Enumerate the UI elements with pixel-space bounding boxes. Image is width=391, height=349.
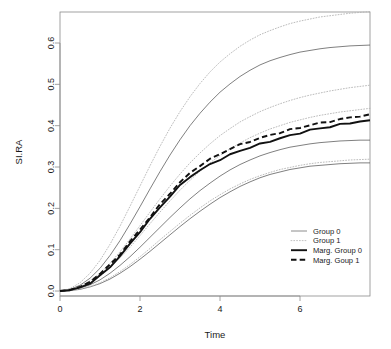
legend-label: Group 1	[313, 236, 340, 245]
y-axis-tick-label: 0.4	[46, 119, 56, 132]
x-axis-title: Time	[205, 329, 226, 340]
legend-label: Marg. Goup 1	[313, 256, 359, 265]
legend-label: Group 0	[313, 227, 340, 236]
chart-container: 0.00.10.20.30.40.50.60246 Group 0Group 1…	[0, 0, 391, 349]
y-axis-tick-label: 0.6	[46, 37, 56, 50]
y-axis-tick-label: 0.3	[46, 161, 56, 174]
legend-label: Marg. Group 0	[313, 246, 362, 255]
x-axis-tick-label: 6	[297, 304, 302, 314]
x-axis-tick-label: 4	[217, 304, 222, 314]
y-axis-tick-label: 0.5	[46, 78, 56, 91]
line-chart: 0.00.10.20.30.40.50.60246 Group 0Group 1…	[0, 0, 391, 349]
y-axis-tick-label: 0.0	[46, 285, 56, 298]
y-axis-tick-label: 0.2	[46, 202, 56, 215]
chart-background	[0, 0, 391, 349]
y-axis-title: SI.RA	[13, 139, 24, 164]
x-axis-tick-label: 2	[137, 304, 142, 314]
y-axis-tick-label: 0.1	[46, 243, 56, 256]
x-axis-tick-label: 0	[57, 304, 62, 314]
